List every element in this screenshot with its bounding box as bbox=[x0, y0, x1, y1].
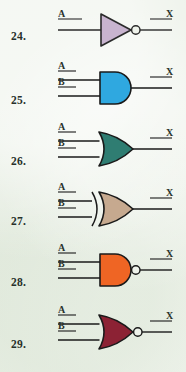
gate-symbol-not bbox=[0, 0, 186, 60]
input-label-a: A bbox=[58, 61, 65, 71]
output-label-x: X bbox=[166, 67, 173, 77]
gate-diagram-nor bbox=[0, 302, 186, 362]
gate-diagram-xor bbox=[0, 179, 186, 239]
output-label-x: X bbox=[166, 188, 173, 198]
output-label-x: X bbox=[166, 249, 173, 259]
problem-number: 29. bbox=[11, 339, 26, 351]
worksheet-page: AX24.ABX25.ABX26.ABX27.ABX28.ABX29. bbox=[0, 0, 186, 372]
problem-number: 25. bbox=[11, 95, 26, 107]
problem-number: 24. bbox=[11, 31, 26, 43]
gate-symbol-xor bbox=[0, 179, 186, 239]
problem-row: ABX bbox=[0, 58, 186, 118]
gate-symbol-and bbox=[0, 58, 186, 118]
gate-diagram-not bbox=[0, 0, 186, 60]
gate-symbol-nor bbox=[0, 302, 186, 362]
problem-number: 28. bbox=[11, 277, 26, 289]
problem-row: ABX bbox=[0, 119, 186, 179]
gate-diagram-nand bbox=[0, 240, 186, 300]
gate-symbol-nand bbox=[0, 240, 186, 300]
problem-row: AX bbox=[0, 0, 186, 60]
output-label-x: X bbox=[166, 128, 173, 138]
input-label-a: A bbox=[58, 122, 65, 132]
input-label-a: A bbox=[58, 305, 65, 315]
output-label-x: X bbox=[166, 311, 173, 321]
gate-diagram-and bbox=[0, 58, 186, 118]
problem-row: ABX bbox=[0, 302, 186, 362]
input-label-b: B bbox=[58, 198, 65, 208]
input-label-b: B bbox=[58, 77, 65, 87]
output-label-x: X bbox=[166, 9, 173, 19]
input-label-a: A bbox=[58, 182, 65, 192]
gate-symbol-or bbox=[0, 119, 186, 179]
gate-diagram-or bbox=[0, 119, 186, 179]
input-label-b: B bbox=[58, 138, 65, 148]
input-label-a: A bbox=[58, 243, 65, 253]
problem-row: ABX bbox=[0, 179, 186, 239]
input-label-a: A bbox=[58, 9, 65, 19]
input-label-b: B bbox=[58, 321, 65, 331]
problem-number: 27. bbox=[11, 216, 26, 228]
input-label-b: B bbox=[58, 259, 65, 269]
problem-number: 26. bbox=[11, 156, 26, 168]
problem-row: ABX bbox=[0, 240, 186, 300]
